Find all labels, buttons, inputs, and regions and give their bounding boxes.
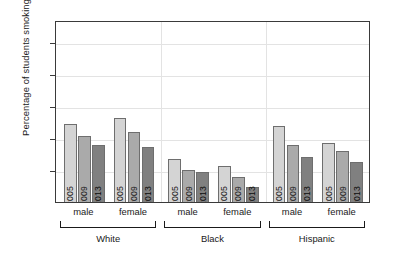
bar-white-male-2009: 2009 <box>78 136 91 203</box>
gridline-y-30 <box>56 108 369 109</box>
bar-hispanic-male-2005: 2005 <box>273 126 286 203</box>
gridline-y-50 <box>56 44 369 45</box>
gridline-y-40 <box>56 76 369 77</box>
sex-label-hispanic-female: female <box>328 206 356 217</box>
sex-label-white-male: male <box>73 206 93 217</box>
bar-year-label: 2009 <box>288 186 298 203</box>
group-separator-hispanic <box>266 22 267 202</box>
bar-year-label: 2009 <box>79 186 89 203</box>
bar-year-label: 2005 <box>115 186 125 203</box>
bar-year-label: 2009 <box>233 186 243 203</box>
race-bracket-white <box>60 221 156 228</box>
bar-year-label: 2013 <box>352 186 362 203</box>
bar-hispanic-female-2009: 2009 <box>336 151 349 203</box>
bar-black-female-2013: 2013 <box>246 187 259 203</box>
bar-year-label: 2005 <box>170 186 180 203</box>
sex-label-white-female: female <box>119 206 147 217</box>
bar-white-female-2005: 2005 <box>114 118 127 203</box>
sex-label-black-male: male <box>177 206 197 217</box>
bar-black-male-2013: 2013 <box>196 172 209 203</box>
race-label-black: Black <box>201 233 224 244</box>
gridline-y-20 <box>56 140 369 141</box>
group-separator-black <box>161 22 162 202</box>
bar-hispanic-female-2013: 2013 <box>350 162 363 203</box>
bar-hispanic-male-2013: 2013 <box>301 157 314 203</box>
race-label-white: White <box>96 233 120 244</box>
bar-year-label: 2005 <box>65 186 75 203</box>
bar-white-female-2009: 2009 <box>128 132 141 203</box>
bar-black-male-2005: 2005 <box>168 159 181 203</box>
bar-hispanic-male-2009: 2009 <box>287 145 300 203</box>
bar-white-female-2013: 2013 <box>142 147 155 203</box>
bar-year-label: 2013 <box>93 186 103 203</box>
bar-white-male-2005: 2005 <box>64 124 77 203</box>
sex-label-hispanic-male: male <box>282 206 302 217</box>
plot-area: 2005200920132005200920132005200920132005… <box>55 21 370 203</box>
bar-black-male-2009: 2009 <box>182 170 195 203</box>
race-bracket-hispanic <box>269 221 365 228</box>
bar-year-label: 2009 <box>184 186 194 203</box>
bar-hispanic-female-2005: 2005 <box>322 143 335 203</box>
bar-black-female-2005: 2005 <box>218 166 231 203</box>
bar-year-label: 2009 <box>338 186 348 203</box>
sex-label-black-female: female <box>223 206 251 217</box>
bar-year-label: 2005 <box>324 186 334 203</box>
bar-year-label: 2005 <box>274 186 284 203</box>
bar-year-label: 2013 <box>302 186 312 203</box>
bar-year-label: 2005 <box>219 186 229 203</box>
bar-year-label: 2013 <box>247 186 257 203</box>
bar-year-label: 2013 <box>143 186 153 203</box>
race-label-hispanic: Hispanic <box>299 233 335 244</box>
smoking-percentage-bar-chart: Percentage of students smoking 102030405… <box>0 0 394 253</box>
bar-year-label: 2013 <box>198 186 208 203</box>
bar-black-female-2009: 2009 <box>232 177 245 203</box>
bar-year-label: 2009 <box>129 186 139 203</box>
bar-white-male-2013: 2013 <box>92 145 105 203</box>
race-bracket-black <box>164 221 260 228</box>
